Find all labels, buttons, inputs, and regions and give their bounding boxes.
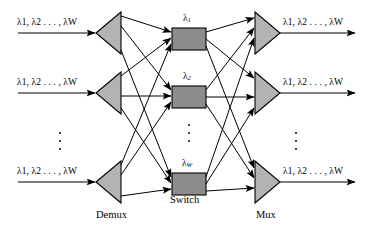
switch-label-3: λW bbox=[182, 158, 192, 168]
mux-triangle-3 bbox=[255, 161, 280, 203]
link-d3-s1 bbox=[121, 44, 171, 165]
switch-label-2: λ2 bbox=[183, 71, 191, 81]
input-label-3-text: λ1, λ2 . . . , λW bbox=[17, 166, 77, 176]
switch-box-2 bbox=[172, 86, 206, 108]
demux-triangles bbox=[96, 12, 121, 203]
input-label-2-text: λ1, λ2 . . . , λW bbox=[17, 77, 77, 87]
input-label-1: λ1, λ2 . . . , λW bbox=[17, 17, 77, 27]
switch-stage-label: Switch bbox=[170, 194, 199, 205]
demux-triangle-3 bbox=[96, 161, 121, 203]
link-s3-m2 bbox=[206, 108, 254, 184]
switch-label-2-sub: 2 bbox=[188, 74, 191, 81]
ellipsis-dot bbox=[59, 148, 61, 150]
demux-triangle-1 bbox=[96, 12, 121, 54]
input-label-1-text: λ1, λ2 . . . , λW bbox=[17, 17, 77, 27]
ellipsis-dot bbox=[188, 132, 190, 134]
demux-stage-label: Demux bbox=[96, 209, 127, 220]
input-arrows bbox=[18, 33, 95, 182]
link-d1-s1 bbox=[121, 16, 171, 32]
link-s2-m3 bbox=[206, 104, 254, 178]
output-label-1-text: λ1, λ2 . . . , λW bbox=[283, 17, 343, 27]
link-d1-s2 bbox=[121, 26, 171, 90]
switch-stage-label-text: Switch bbox=[170, 194, 199, 205]
switch-label-1: λ1 bbox=[183, 13, 191, 23]
wdm-crossconnect-figure: λ1, λ2 . . . , λW λ1, λ2 . . . , λW λ1, … bbox=[0, 0, 366, 236]
switch-label-1-sub: 1 bbox=[188, 16, 191, 23]
switch-box-1 bbox=[172, 28, 206, 50]
output-label-2-text: λ1, λ2 . . . , λW bbox=[283, 77, 343, 87]
link-s1-m1 bbox=[206, 18, 254, 32]
demux-triangle-2 bbox=[96, 72, 121, 114]
switch-to-mux-links bbox=[206, 18, 254, 191]
output-ellipsis bbox=[294, 132, 298, 150]
output-arrows bbox=[280, 33, 355, 182]
mux-stage-label-text: Mux bbox=[256, 209, 276, 220]
switch-ellipsis bbox=[187, 124, 191, 142]
ellipsis-dot bbox=[188, 124, 190, 126]
ellipsis-dot bbox=[59, 140, 61, 142]
output-label-3-text: λ1, λ2 . . . , λW bbox=[283, 166, 343, 176]
mux-triangles bbox=[255, 12, 280, 203]
mux-triangle-1 bbox=[255, 12, 280, 54]
switch-label-3-sub: W bbox=[187, 161, 193, 168]
output-label-3: λ1, λ2 . . . , λW bbox=[283, 166, 343, 176]
ellipsis-dot bbox=[295, 148, 297, 150]
ellipsis-dot bbox=[188, 140, 190, 142]
output-label-1: λ1, λ2 . . . , λW bbox=[283, 17, 343, 27]
mux-triangle-2 bbox=[255, 72, 280, 114]
link-d3-s3 bbox=[121, 189, 171, 196]
input-label-2: λ1, λ2 . . . , λW bbox=[17, 77, 77, 87]
input-label-3: λ1, λ2 . . . , λW bbox=[17, 166, 77, 176]
demux-stage-label-text: Demux bbox=[96, 209, 127, 220]
ellipsis-dot bbox=[295, 132, 297, 134]
mux-stage-label: Mux bbox=[256, 209, 276, 220]
link-s3-m3 bbox=[206, 188, 254, 191]
ellipsis-dot bbox=[59, 132, 61, 134]
demux-to-switch-links bbox=[121, 16, 171, 196]
output-label-2: λ1, λ2 . . . , λW bbox=[283, 77, 343, 87]
link-d2-s1 bbox=[121, 38, 171, 76]
ellipsis-dot bbox=[295, 140, 297, 142]
switch-box-3 bbox=[172, 173, 206, 195]
switch-boxes bbox=[172, 28, 206, 195]
input-ellipsis bbox=[58, 132, 62, 150]
link-d2-s3 bbox=[121, 108, 171, 183]
